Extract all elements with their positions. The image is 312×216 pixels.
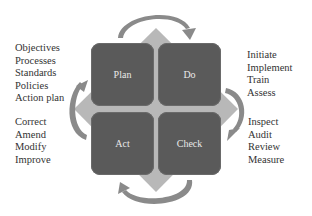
pdca-diagram: Plan Do Act Check Objectives Processes S… bbox=[0, 0, 312, 216]
check-label: Check bbox=[177, 138, 203, 149]
plan-label: Plan bbox=[114, 69, 132, 80]
quadrant-act: Act bbox=[91, 112, 154, 175]
list-item: Policies bbox=[15, 80, 64, 93]
quadrant-do: Do bbox=[158, 43, 221, 106]
plan-activities-list: Objectives Processes Standards Policies … bbox=[15, 42, 64, 105]
quadrant-check: Check bbox=[158, 112, 221, 175]
list-item: Train bbox=[247, 74, 293, 87]
do-activities-list: Initiate Implement Train Assess bbox=[247, 49, 293, 99]
list-item: Improve bbox=[15, 154, 51, 167]
list-item: Initiate bbox=[247, 49, 293, 62]
list-item: Implement bbox=[247, 62, 293, 75]
list-item: Modify bbox=[15, 141, 51, 154]
act-activities-list: Correct Amend Modify Improve bbox=[15, 116, 51, 166]
act-label: Act bbox=[115, 138, 129, 149]
list-item: Review bbox=[248, 141, 284, 154]
list-item: Assess bbox=[247, 87, 293, 100]
quadrant-plan: Plan bbox=[91, 43, 154, 106]
list-item: Inspect bbox=[248, 116, 284, 129]
diagram-graphics bbox=[0, 0, 312, 216]
list-item: Amend bbox=[15, 129, 51, 142]
list-item: Audit bbox=[248, 129, 284, 142]
list-item: Standards bbox=[15, 67, 64, 80]
list-item: Correct bbox=[15, 116, 51, 129]
list-item: Action plan bbox=[15, 92, 64, 105]
list-item: Objectives bbox=[15, 42, 64, 55]
do-label: Do bbox=[183, 69, 195, 80]
check-activities-list: Inspect Audit Review Measure bbox=[248, 116, 284, 166]
list-item: Processes bbox=[15, 55, 64, 68]
list-item: Measure bbox=[248, 154, 284, 167]
